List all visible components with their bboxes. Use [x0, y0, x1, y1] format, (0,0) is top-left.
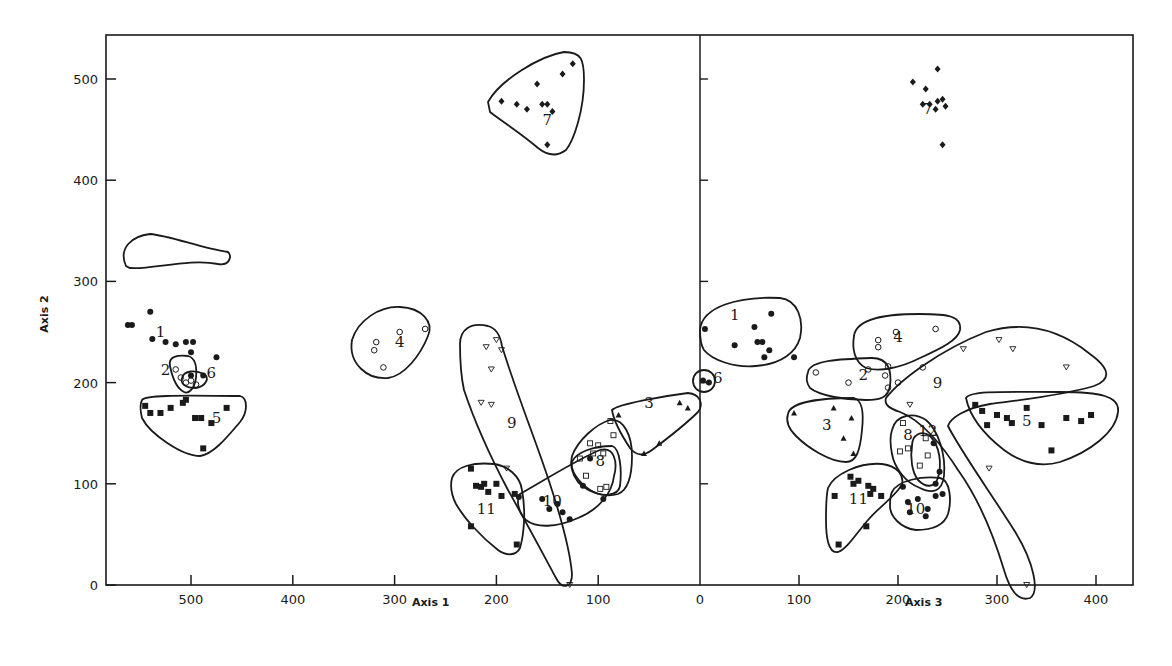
- point-filled-diamond: [943, 103, 949, 110]
- point-open-square: [604, 484, 609, 489]
- point-filled-circle: [761, 354, 767, 360]
- point-filled-diamond: [910, 79, 916, 86]
- x-tick-label: 400: [1084, 592, 1109, 607]
- point-open-square: [900, 421, 905, 426]
- y-axis-title: Axis 2: [38, 295, 51, 332]
- point-filled-diamond: [933, 106, 939, 113]
- point-open-triangle-down: [1063, 365, 1069, 370]
- point-filled-diamond: [570, 60, 576, 67]
- point-filled-circle: [587, 456, 593, 462]
- cluster-label-12: 12: [918, 422, 937, 440]
- point-filled-diamond: [935, 65, 941, 72]
- point-filled-circle: [700, 378, 706, 384]
- point-filled-square: [493, 481, 499, 487]
- point-filled-circle: [937, 469, 943, 475]
- cluster-label-4: 4: [893, 328, 903, 346]
- outer-frame: [106, 35, 1133, 585]
- point-filled-square: [224, 405, 230, 411]
- point-filled-triangle: [685, 405, 691, 411]
- point-filled-circle: [933, 481, 939, 487]
- hull-left-1: [124, 234, 230, 268]
- hull-left-4: [351, 307, 429, 378]
- point-open-triangle-down: [478, 400, 484, 405]
- y-axis-ticks-divider: [700, 79, 708, 484]
- cluster-label-9: 9: [933, 374, 943, 392]
- hull-left-3: [612, 393, 701, 454]
- point-filled-diamond: [560, 70, 566, 77]
- point-filled-triangle: [848, 415, 854, 421]
- point-open-square: [917, 463, 922, 468]
- cluster-label-10: 10: [543, 492, 562, 510]
- point-filled-square: [867, 491, 873, 497]
- hull-right-4: [853, 314, 960, 370]
- x-axis-title-left: Axis 1: [412, 596, 449, 609]
- point-filled-square: [1063, 415, 1069, 421]
- point-filled-diamond: [940, 141, 946, 148]
- cluster-label-1: 1: [156, 323, 166, 341]
- point-open-circle: [933, 326, 939, 332]
- point-filled-square: [157, 410, 163, 416]
- cluster-label-5: 5: [212, 409, 222, 427]
- point-filled-triangle: [791, 410, 797, 416]
- point-filled-square: [1088, 412, 1094, 418]
- point-open-square: [611, 433, 616, 438]
- cluster-label-8: 8: [903, 426, 913, 444]
- point-open-triangle-down: [1010, 347, 1016, 352]
- point-open-circle: [173, 367, 179, 373]
- point-filled-diamond: [935, 98, 941, 105]
- cluster-label-7: 7: [923, 100, 933, 118]
- point-filled-square: [198, 415, 204, 421]
- point-filled-circle: [600, 496, 606, 502]
- point-filled-square: [168, 405, 174, 411]
- y-tick-label: 100: [73, 477, 98, 492]
- point-filled-square: [878, 493, 884, 499]
- cluster-label-3: 3: [644, 394, 654, 412]
- point-filled-square: [972, 402, 978, 408]
- y-tick-label: 300: [73, 274, 98, 289]
- point-filled-square: [1078, 418, 1084, 424]
- point-filled-square: [183, 397, 189, 403]
- point-open-circle: [188, 378, 194, 384]
- point-open-circle: [381, 365, 387, 371]
- y-tick-label: 500: [73, 72, 98, 87]
- point-filled-square: [979, 408, 985, 414]
- cluster-label-6: 6: [713, 369, 723, 387]
- point-filled-circle: [129, 322, 135, 328]
- cluster-label-4: 4: [395, 333, 405, 351]
- point-filled-triangle: [831, 405, 837, 411]
- x-axis-right: 100200300400: [787, 575, 1109, 607]
- point-filled-circle: [759, 339, 765, 345]
- point-filled-circle: [200, 373, 206, 379]
- x-tick-label: 400: [280, 592, 305, 607]
- point-filled-square: [832, 493, 838, 499]
- point-open-circle: [882, 373, 888, 379]
- hull-left-5: [141, 396, 247, 456]
- scatter-figure-svg: 0100200300400500 5004003002001000 100200…: [0, 0, 1172, 666]
- cluster-label-2: 2: [161, 361, 171, 379]
- cluster-label-7: 7: [543, 111, 553, 129]
- point-filled-circle: [766, 347, 772, 353]
- point-filled-square: [1024, 405, 1030, 411]
- cluster-label-11: 11: [477, 500, 496, 518]
- point-open-triangle-down: [907, 402, 913, 407]
- point-filled-square: [847, 474, 853, 480]
- x-tick-label: 300: [382, 592, 407, 607]
- point-filled-circle: [183, 339, 189, 345]
- cluster-label-2: 2: [859, 366, 869, 384]
- cluster-label-11: 11: [849, 490, 868, 508]
- cluster-label-6: 6: [207, 364, 217, 382]
- point-open-circle: [373, 339, 379, 345]
- point-filled-square: [514, 542, 520, 548]
- point-filled-circle: [933, 493, 939, 499]
- point-filled-diamond: [544, 101, 550, 108]
- hull-right-2: [807, 358, 891, 400]
- x-tick-label: 100: [586, 592, 611, 607]
- point-open-triangle-down: [986, 466, 992, 471]
- point-filled-diamond: [534, 81, 540, 88]
- point-open-triangle-down: [488, 402, 494, 407]
- point-filled-circle: [900, 484, 906, 490]
- point-filled-circle: [567, 516, 573, 522]
- point-filled-square: [994, 412, 1000, 418]
- point-open-square: [897, 449, 902, 454]
- point-filled-circle: [940, 491, 946, 497]
